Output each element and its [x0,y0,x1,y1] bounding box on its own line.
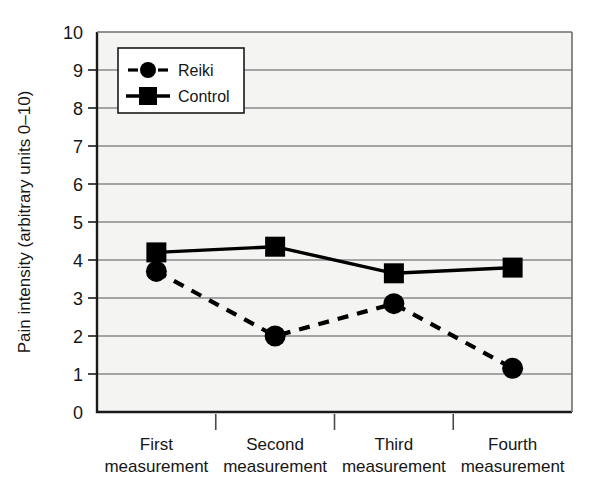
x-category-label-3-line-0: Fourth [488,435,537,454]
data-point-reiki-3 [502,358,523,379]
y-tick-label-3: 3 [73,289,83,309]
x-category-label-2-line-0: Third [375,435,414,454]
legend-label-control: Control [178,88,230,105]
y-tick-label-6: 6 [73,175,83,195]
x-category-label-0-line-1: measurement [104,457,208,476]
legend-item-control: Control [126,87,230,105]
x-category-label-0-line-0: First [140,435,173,454]
data-point-control-0 [146,242,166,262]
data-point-reiki-2 [383,293,404,314]
chart-legend: Reiki Control [118,48,244,113]
chart-canvas: 012345678910 FirstmeasurementSecondmeasu… [0,0,611,487]
y-tick-label-2: 2 [73,327,83,347]
y-tick-label-0: 0 [73,403,83,423]
x-category-label-2-line-1: measurement [342,457,446,476]
y-tick-label-4: 4 [73,251,83,271]
y-tick-label-1: 1 [73,365,83,385]
data-point-control-1 [265,237,285,257]
legend-label-reiki: Reiki [178,62,214,79]
category-separators [216,414,454,430]
y-tick-label-7: 7 [73,137,83,157]
y-tick-label-9: 9 [73,61,83,81]
y-tick-label-8: 8 [73,99,83,119]
x-category-label-1-line-1: measurement [223,457,327,476]
pain-intensity-line-chart: 012345678910 FirstmeasurementSecondmeasu… [0,0,611,487]
y-axis-title: Pain intensity (arbitrary units 0–10) [15,91,34,354]
data-point-reiki-0 [146,261,167,282]
data-point-control-3 [503,258,523,278]
y-axis: 012345678910 [63,23,97,423]
legend-reiki-circle-marker [140,62,156,78]
y-tick-label-10: 10 [63,23,83,43]
legend-control-square-marker [139,87,157,105]
data-point-control-2 [384,263,404,283]
data-point-reiki-1 [265,326,286,347]
x-category-label-3-line-1: measurement [461,457,565,476]
y-tick-label-5: 5 [73,213,83,233]
x-category-label-1-line-0: Second [246,435,304,454]
x-axis-category-labels: FirstmeasurementSecondmeasurementThirdme… [104,435,564,476]
